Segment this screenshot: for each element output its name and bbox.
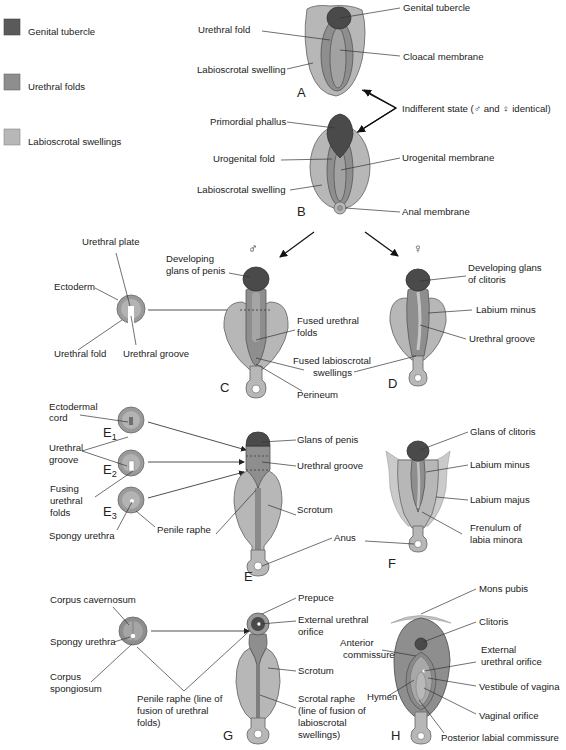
label-fusing-2: urethral [50, 495, 83, 506]
label-developing-glans-penis-2: glans of penis [166, 265, 225, 276]
section-e2-label: E2 [103, 462, 117, 479]
stage-a-figure: A [262, 5, 400, 100]
label-urethral-fold-a: Urethral fold [198, 24, 250, 35]
section-e1-label: E1 [103, 425, 117, 442]
stage-c-figure: C [220, 267, 304, 398]
legend-swatch-labioscrotal-swellings [4, 129, 20, 145]
label-developing-glans-penis-1: Developing [166, 253, 214, 264]
stage-a-letter: A [297, 85, 306, 100]
label-urogenital-membrane: Urogenital membrane [402, 152, 494, 163]
label-ectodermal-cord-1: Ectodermal [49, 401, 98, 412]
label-frenulum-2: labia minora [470, 534, 523, 545]
stage-c-letter: C [220, 380, 229, 395]
label-scrotum-g: Scrotum [298, 665, 334, 676]
label-mons-pubis: Mons pubis [479, 583, 528, 594]
label-scrotal-raphe-4: swellings) [298, 729, 340, 740]
stage-h-figure: H [382, 589, 476, 744]
stage-e-letter: E [244, 569, 253, 584]
stage-d-letter: D [388, 376, 397, 391]
label-spongy-urethra-e: Spongy urethra [49, 530, 115, 541]
label-corpus-cavernosum: Corpus cavernosum [50, 594, 136, 605]
label-spongy-urethra-g: Spongy urethra [50, 636, 116, 647]
arrow-to-female [365, 232, 398, 256]
male-symbol: ♂ [248, 241, 258, 256]
label-fused-urethral-1: Fused urethral [297, 315, 359, 326]
label-scrotum-e: Scrotum [297, 504, 333, 515]
label-labium-minus-f: Labium minus [470, 459, 530, 470]
label-vestibule-of-vagina: Vestibule of vagina [479, 681, 560, 692]
legend-swatch-urethral-folds [4, 74, 20, 90]
stage-h-letter: H [391, 728, 400, 743]
label-developing-glans-clitoris-1: Developing glans [468, 262, 542, 273]
label-corpus-spongiosum-2: spongiosum [50, 683, 102, 694]
label-urethral-groove-e-2: groove [49, 454, 78, 465]
label-ectoderm: Ectoderm [54, 281, 95, 292]
stage-g-figure: G [223, 598, 296, 744]
label-primordial-phallus: Primordial phallus [210, 116, 286, 127]
label-fusing-1: Fusing [50, 483, 79, 494]
stage-b-figure: B [281, 114, 400, 219]
label-urogenital-fold: Urogenital fold [213, 153, 275, 164]
label-penile-raphe-g-2: fusion of urethral [137, 705, 208, 716]
label-urethral-groove-d: Urethral groove [469, 333, 535, 344]
label-fused-urethral-2: folds [297, 327, 317, 338]
label-anus: Anus [334, 532, 356, 543]
label-prepuce: Prepuce [298, 592, 334, 603]
label-external-urethral-h-2: urethral orifice [481, 656, 542, 667]
label-glans-of-clitoris: Glans of clitoris [470, 426, 536, 437]
label-ectodermal-cord-2: cord [49, 412, 68, 423]
label-labium-majus: Labium majus [470, 494, 530, 505]
label-scrotal-raphe-3: labioscrotal [298, 717, 347, 728]
label-urethral-groove-c: Urethral groove [123, 348, 189, 359]
label-cloacal-membrane: Cloacal membrane [403, 51, 484, 62]
label-urethral-groove-e: Urethral groove [297, 460, 363, 471]
stage-f-figure: F [365, 432, 468, 571]
genital-development-diagram: Genital tubercle Urethral folds Labioscr… [0, 0, 566, 750]
label-anterior-commissure-1: Anterior [340, 637, 374, 648]
arrow-to-male [280, 232, 314, 257]
label-urethral-groove-e-1: Urethral [49, 442, 83, 453]
legend-label-urethral-folds: Urethral folds [28, 81, 85, 92]
label-fused-labioscrotal-2: swellings [313, 367, 352, 378]
label-external-urethral-g-1: External urethral [298, 614, 368, 625]
label-labioscrotal-swelling-a: Labioscrotal swelling [197, 64, 286, 75]
label-penile-raphe-e: Penile raphe [157, 524, 211, 535]
label-anterior-commissure-2: commissure [343, 649, 395, 660]
label-genital-tubercle: Genital tubercle [403, 2, 470, 13]
label-indifferent-state: Indifferent state (♂ and ♀ identical) [402, 103, 551, 114]
label-external-urethral-h-1: External [481, 644, 516, 655]
label-penile-raphe-g-1: Penile raphe (line of [137, 693, 223, 704]
label-urethral-plate: Urethral plate [82, 236, 140, 247]
label-urethral-fold-c: Urethral fold [54, 348, 106, 359]
label-scrotal-raphe-2: (line of fusion of [298, 705, 366, 716]
legend-label-labioscrotal-swellings: Labioscrotal swellings [28, 136, 122, 147]
label-anal-membrane: Anal membrane [402, 206, 470, 217]
legend: Genital tubercle Urethral folds Labioscr… [4, 19, 122, 147]
legend-swatch-genital-tubercle [4, 19, 20, 35]
stage-g-letter: G [223, 728, 233, 743]
female-symbol: ♀ [413, 241, 423, 256]
label-developing-glans-clitoris-2: of clitoris [468, 274, 506, 285]
label-fused-labioscrotal-1: Fused labioscrotal [293, 355, 371, 366]
legend-label-genital-tubercle: Genital tubercle [28, 26, 95, 37]
label-external-urethral-g-2: orifice [298, 626, 324, 637]
label-vaginal-orifice: Vaginal orifice [479, 710, 539, 721]
stage-g-cross-section [91, 607, 256, 691]
label-penile-raphe-g-3: folds) [137, 717, 160, 728]
label-glans-of-penis: Glans of penis [297, 434, 359, 445]
label-frenulum-1: Frenulum of [470, 522, 522, 533]
label-labioscrotal-swelling-b: Labioscrotal swelling [197, 184, 286, 195]
stage-d-figure: D [354, 269, 472, 391]
label-fusing-3: folds [50, 507, 70, 518]
stage-f-letter: F [388, 556, 396, 571]
label-clitoris: Clitoris [479, 616, 509, 627]
label-hymen: Hymen [367, 691, 397, 702]
label-labium-minus-d: Labium minus [476, 304, 536, 315]
stage-b-letter: B [297, 204, 306, 219]
label-perineum: Perineum [297, 389, 338, 400]
section-e3-label: E3 [103, 504, 117, 521]
label-scrotal-raphe-1: Scrotal raphe [298, 693, 355, 704]
indifferent-arrows [356, 90, 396, 133]
label-posterior-labial-commissure: Posterior labial commissure [441, 732, 559, 743]
label-corpus-spongiosum-1: Corpus [50, 671, 81, 682]
